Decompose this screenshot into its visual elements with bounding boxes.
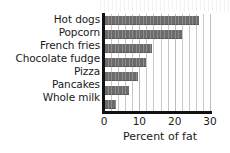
category-label-pizza: Pizza xyxy=(0,66,100,76)
bar-chart: Hot dogs Popcorn French fries Chocolate … xyxy=(0,0,230,153)
x-tick-label-30: 30 xyxy=(203,115,216,127)
x-tick-label-10: 10 xyxy=(133,115,146,127)
y-axis-line xyxy=(102,13,105,112)
category-label-chocolate-fudge: Chocolate fudge xyxy=(0,53,100,63)
scan-artifact xyxy=(100,0,230,11)
bar-hot-dogs xyxy=(104,16,199,25)
category-label-hot-dogs: Hot dogs xyxy=(0,14,100,24)
bar-pancakes xyxy=(104,86,129,95)
bar-chocolate-fudge xyxy=(104,58,146,67)
x-axis-tick-labels: 0102030 xyxy=(104,115,214,129)
x-axis-line xyxy=(102,111,212,114)
category-axis-labels: Hot dogs Popcorn French fries Chocolate … xyxy=(0,14,100,111)
x-axis-title: Percent of fat xyxy=(104,130,216,143)
bar-popcorn xyxy=(104,30,182,39)
category-label-french-fries: French fries xyxy=(0,40,100,50)
plot-area xyxy=(104,14,210,111)
bar-pizza xyxy=(104,72,138,81)
bar-french-fries xyxy=(104,44,152,53)
bar-whole-milk xyxy=(104,100,116,109)
x-tick-label-0: 0 xyxy=(101,115,108,127)
bar-series xyxy=(104,14,210,111)
category-label-popcorn: Popcorn xyxy=(0,27,100,37)
gridline xyxy=(210,14,211,111)
x-tick-label-20: 20 xyxy=(168,115,181,127)
category-label-whole-milk: Whole milk xyxy=(0,92,100,102)
category-label-pancakes: Pancakes xyxy=(0,79,100,89)
